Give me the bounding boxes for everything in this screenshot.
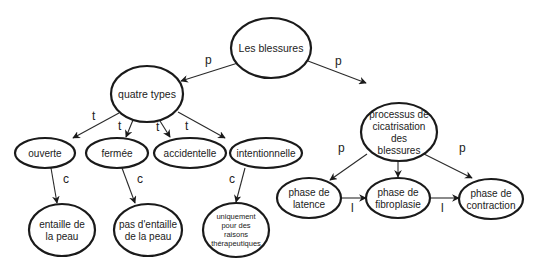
edge-intentionnelle-to-therapeutique: c — [229, 168, 245, 202]
edge-label: t — [185, 119, 189, 133]
edge-label: p — [338, 141, 345, 155]
node-contraction: phase decontraction — [459, 179, 523, 219]
node-label: processus de — [369, 109, 429, 120]
node-label: raisons — [224, 230, 248, 239]
nodes-layer: Les blessuresquatre typesprocessus decic… — [15, 18, 523, 257]
edge-label: t — [118, 119, 122, 133]
node-label: pas d'entaille — [119, 219, 178, 230]
node-entaille: entaille dela peau — [29, 204, 95, 256]
edge-label: t — [92, 109, 96, 123]
arrow-line — [424, 154, 472, 178]
edge-label: p — [459, 141, 466, 155]
arrow-line — [236, 168, 245, 202]
node-label: phase de — [288, 187, 330, 198]
node-label: uniquement — [216, 212, 256, 221]
edge-process-to-latence: p — [330, 141, 367, 180]
node-intentionnelle: intentionnelle — [230, 138, 302, 168]
node-therapeutique: uniquementpour desraisonsthérapeutiques — [203, 203, 269, 257]
node-label: blessures — [378, 145, 421, 156]
node-label: la peau — [46, 231, 79, 242]
edge-label: c — [229, 172, 235, 186]
node-accidentelle: accidentelle — [154, 138, 226, 168]
node-fermee: fermée — [86, 138, 148, 168]
node-label: contraction — [467, 200, 516, 211]
edge-label: l — [441, 201, 444, 215]
edge-fibroplasie-to-contraction: l — [430, 198, 459, 215]
node-root: Les blessures — [231, 18, 311, 78]
node-label: thérapeutiques — [211, 239, 261, 248]
node-label: cicatrisation — [373, 121, 426, 132]
arrow-line — [126, 120, 133, 137]
edge-types-to-intentionnelle: t — [178, 112, 225, 138]
node-label: Les blessures — [239, 42, 304, 54]
arrow-line — [330, 154, 367, 180]
edge-types-to-fermee: t — [118, 119, 133, 137]
node-label: ouverte — [28, 148, 62, 159]
arrow-line — [122, 168, 135, 203]
node-label: quatre types — [118, 88, 176, 100]
edge-fermee-to-pas_entaille: c — [122, 168, 143, 203]
node-ouverte: ouverte — [15, 138, 75, 168]
node-label: de la peau — [125, 231, 172, 242]
edge-types-to-ouverte: t — [73, 109, 119, 138]
node-pas_entaille: pas d'entaillede la peau — [114, 204, 182, 256]
edge-root-to-process: p — [308, 54, 366, 83]
edge-types-to-accidentelle: t — [156, 120, 170, 137]
node-label: fermée — [101, 148, 133, 159]
arrow-line — [160, 121, 170, 137]
node-label: fibroplasie — [375, 199, 421, 210]
edge-label: p — [205, 53, 212, 67]
edge-latence-to-fibroplasie: l — [341, 198, 366, 215]
node-label: accidentelle — [164, 148, 217, 159]
node-label: phase de — [377, 187, 419, 198]
node-label: latence — [293, 199, 326, 210]
concept-map: ppttttcccpppll Les blessuresquatre types… — [0, 0, 537, 275]
edge-label: l — [351, 201, 354, 215]
node-fibroplasie: phase defibroplasie — [366, 178, 430, 218]
node-label: pour des — [221, 221, 250, 230]
node-label: intentionnelle — [237, 148, 296, 159]
node-label: phase de — [470, 188, 512, 199]
arrow-line — [73, 113, 119, 138]
node-process: processus decicatrisationdesblessures — [361, 103, 437, 161]
node-latence: phase delatence — [277, 178, 341, 218]
edge-label: c — [137, 172, 143, 186]
edge-label: c — [63, 172, 69, 186]
edge-label: p — [335, 54, 342, 68]
edge-ouverte-to-entaille: c — [51, 168, 69, 203]
node-label: des — [391, 133, 407, 144]
arrow-line — [51, 168, 57, 203]
node-label: entaille de — [39, 219, 85, 230]
node-types: quatre types — [111, 66, 183, 122]
